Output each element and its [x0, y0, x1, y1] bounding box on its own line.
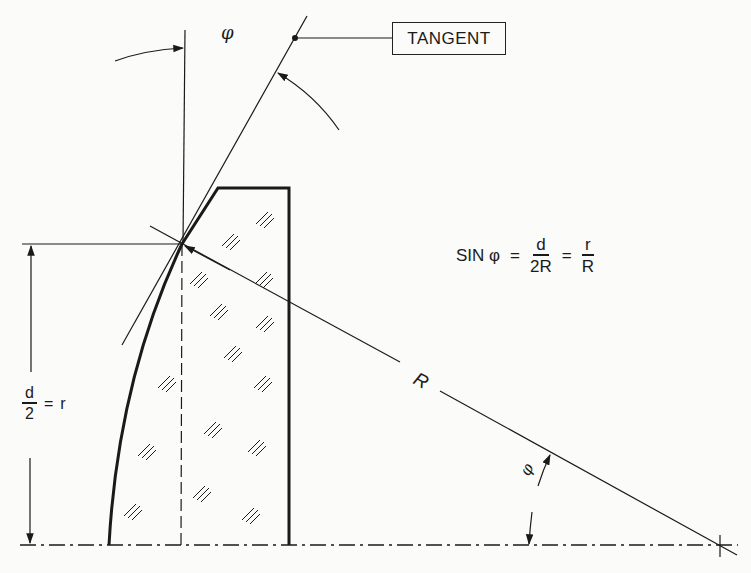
half-diameter-denominator: 2: [25, 404, 34, 422]
phi-arc-bottom-down: [529, 512, 532, 544]
radius-line-a: [150, 226, 400, 362]
radius-arrow: [185, 246, 230, 270]
phi-angle-label-top: φ: [221, 22, 234, 43]
tangent-label-box: TANGENT: [392, 22, 506, 55]
fraction-2-numerator: r: [582, 236, 594, 256]
fraction-2-denominator: R: [582, 256, 594, 275]
formula-eq1: =: [510, 246, 520, 266]
formula-eq2: =: [562, 246, 572, 266]
diagram-canvas: [0, 0, 751, 573]
formula-fraction-1: d 2R: [530, 236, 552, 275]
fraction-1-denominator: 2R: [530, 256, 552, 275]
formula-fraction-2: r R: [582, 236, 594, 275]
radius-line-b: [440, 391, 737, 555]
half-diameter-equals: =: [44, 395, 53, 413]
sine-formula: SIN φ = d 2R = r R: [456, 236, 594, 275]
half-diameter-rhs: r: [60, 395, 65, 413]
tangent-label: TANGENT: [407, 29, 490, 49]
phi-arc-left: [115, 48, 183, 61]
fraction-1-numerator: d: [533, 236, 548, 256]
formula-lhs: SIN φ: [456, 246, 500, 266]
glass-hatching: [124, 212, 274, 524]
vertical-center-dashed: [181, 244, 182, 545]
half-diameter-numerator: d: [22, 385, 37, 404]
half-diameter-fraction: d 2: [22, 385, 37, 422]
phi-arc-bottom-up: [538, 455, 550, 486]
vertical-reference-line: [183, 30, 185, 244]
phi-arc-right: [278, 73, 339, 130]
half-diameter-label: d 2 = r: [22, 385, 66, 422]
